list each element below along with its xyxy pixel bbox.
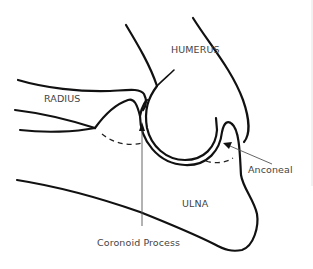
humerus-label: HUMERUS [171,44,220,55]
anconeal-arrowhead-icon [223,142,232,149]
ulna-trochlear-notch [140,100,232,165]
ulna-posterior-border [17,124,257,251]
anconeal-label: Anconeal [248,164,293,175]
anconeal-pointer [223,142,272,164]
coronoid-hidden-contour [102,134,142,144]
radius-lower-border [15,110,95,128]
humerus-condyle [146,86,217,160]
humerus-left-shaft [126,25,157,86]
radius-upper-border [18,80,146,110]
humerus-right-shaft [193,18,248,142]
anconeal-hidden-contour [206,158,233,163]
humerus-branch [157,70,174,86]
anconeal-pointer-line [230,146,272,164]
ulna-label: ULNA [182,198,208,209]
coronoid-label: Coronoid Process [97,237,180,248]
radius-head-lower [20,128,95,132]
radius-label: RADIUS [44,93,80,104]
radius-bone [15,80,146,132]
ulna-bone [17,100,257,251]
ulna-coronoid-contour [95,100,140,128]
elbow-joint-diagram [0,0,313,269]
